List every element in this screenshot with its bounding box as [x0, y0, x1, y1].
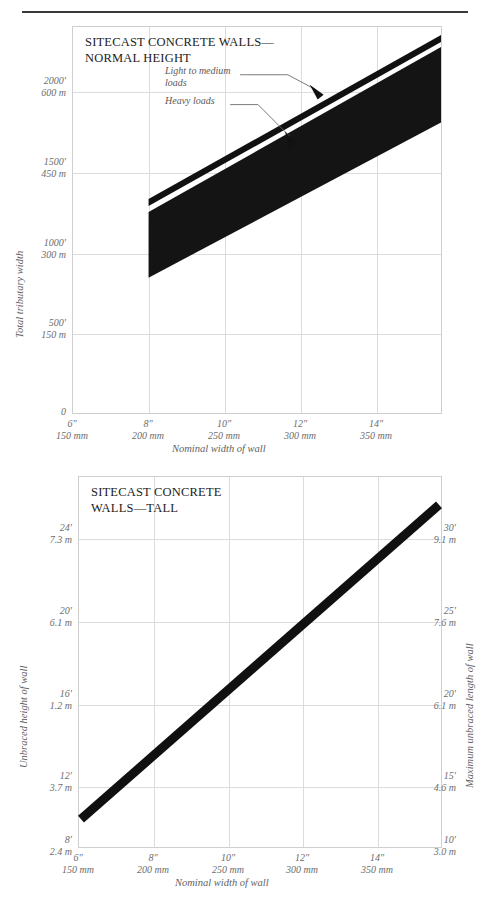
chart-title: SITECAST CONCRETE WALLS—TALL [91, 484, 222, 516]
y-tick-label: 0 [18, 406, 66, 418]
y-tick-label: 12' 3.7 m [22, 770, 72, 793]
y2-tick-label: 20' 6.1 m [404, 688, 456, 711]
chart-sitecast-concrete-walls-tall: SITECAST CONCRETE WALLS—TALL 24' 7.3 m 2… [0, 468, 478, 911]
x-tick-label: 12" 300 mm [270, 418, 330, 441]
gridline-vertical [154, 477, 155, 847]
gridline-vertical [301, 27, 302, 413]
y2-axis-title: Maximum unbraced length of wall [464, 643, 475, 788]
chart-title: SITECAST CONCRETE WALLS— NORMAL HEIGHT [85, 34, 274, 66]
x-axis-title: Nominal width of wall [172, 443, 266, 454]
gridline-horizontal [79, 539, 441, 540]
y2-tick-label: 25' 7.6 m [404, 605, 456, 628]
x-tick-label: 10" 250 mm [194, 418, 254, 441]
gridline-horizontal [79, 622, 441, 623]
plot-area-tall: SITECAST CONCRETE WALLS—TALL [78, 476, 442, 848]
annotation-light-to-medium-loads: Light to medium loads [165, 65, 231, 88]
y-tick-label: 1500' 450 m [18, 156, 66, 179]
gridline-vertical [378, 477, 379, 847]
x-tick-label: 14" 350 mm [347, 852, 407, 875]
y-tick-label: 500' 150 m [18, 317, 66, 340]
y2-tick-label: 30' 9.1 m [404, 522, 456, 545]
gridline-vertical [149, 27, 150, 413]
annotation-heavy-loads: Heavy loads [165, 95, 215, 107]
chart-sitecast-concrete-walls-normal-height: SITECAST CONCRETE WALLS— NORMAL HEIGHT L… [0, 18, 478, 458]
y-tick-label: 24' 7.3 m [22, 522, 72, 545]
x-tick-label: 12" 300 mm [272, 852, 332, 875]
gridline-vertical [303, 477, 304, 847]
y2-tick-label: 15' 4.6 m [404, 770, 456, 793]
gridline-horizontal [73, 254, 441, 255]
leader-line-heavy [230, 105, 290, 137]
y-tick-label: 20' 6.1 m [22, 605, 72, 628]
y-axis-title: Total tributary width [14, 251, 25, 338]
x-tick-label: 14" 350 mm [346, 418, 406, 441]
plot-area-normal: SITECAST CONCRETE WALLS— NORMAL HEIGHT L… [72, 26, 442, 414]
x-tick-label: 6" 150 mm [48, 852, 108, 875]
gridline-horizontal [79, 787, 441, 788]
y-tick-label: 1000' 300 m [18, 237, 66, 260]
y-tick-label: 2000' 600 m [18, 75, 66, 98]
x-tick-label: 8" 200 mm [123, 852, 183, 875]
leader-line-light-medium [240, 75, 316, 90]
y2-tick-label: 10' 3.0 m [404, 834, 456, 857]
x-tick-label: 10" 250 mm [198, 852, 258, 875]
gridline-horizontal [73, 173, 441, 174]
gridline-horizontal [73, 334, 441, 335]
gridline-vertical [377, 27, 378, 413]
load-band-graphic [73, 27, 441, 413]
top-horizontal-rule [22, 11, 468, 13]
unbraced-height-line-graphic [79, 477, 441, 847]
gridline-horizontal [79, 705, 441, 706]
x-tick-label: 6" 150 mm [42, 418, 102, 441]
y-tick-label: 16' 1.2 m [22, 688, 72, 711]
gridline-vertical [229, 477, 230, 847]
leader-arrow-heavy [285, 131, 296, 147]
y-axis-title: Unbraced height of wall [18, 666, 29, 768]
gridline-horizontal [73, 92, 441, 93]
data-line-unbraced-height [81, 505, 439, 819]
figure-page: SITECAST CONCRETE WALLS— NORMAL HEIGHT L… [0, 0, 478, 911]
x-tick-label: 8" 200 mm [118, 418, 178, 441]
x-axis-title: Nominal width of wall [175, 877, 269, 888]
